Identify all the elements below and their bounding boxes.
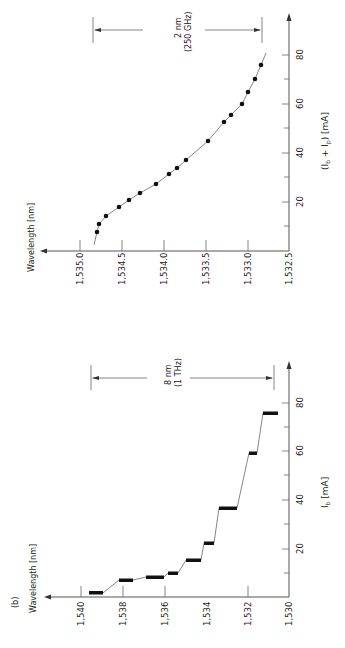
bottom-step-connector <box>103 413 263 593</box>
bottom-ytick-3: 1,534 <box>202 602 212 626</box>
bottom-xtick-60: 60 <box>295 445 305 456</box>
bottom-wavelength-arrow-icon <box>44 595 51 600</box>
top-ytick-3: 1,533.5 <box>201 253 211 285</box>
top-chart: 1,535.0 1,534.5 1,534.0 1,533.5 1,533.0 … <box>27 12 332 285</box>
bottom-ytick-0: 1,540 <box>76 602 86 626</box>
top-xtick-80: 80 <box>295 49 305 60</box>
top-data-points <box>95 63 264 235</box>
bottom-xtick-80: 80 <box>295 397 305 408</box>
bottom-dimension-annotation: 8 nm (1 THz) <box>91 358 274 390</box>
bottom-chart: 1,540 1,538 1,536 1,534 1,532 1,530 20 4… <box>11 358 331 626</box>
bottom-current-arrow-icon <box>287 361 292 369</box>
bottom-annotation-line2: (1 THz) <box>174 358 183 387</box>
top-xtick-40: 40 <box>295 147 305 158</box>
top-xtick-60: 60 <box>295 98 305 109</box>
top-fit-curve <box>94 53 266 245</box>
top-ytick-4: 1,533.0 <box>243 253 253 285</box>
bottom-ytick-2: 1,536 <box>160 602 170 626</box>
top-wavelength-ticks <box>80 240 248 251</box>
top-wavelength-arrow-icon <box>40 249 47 254</box>
top-current-arrow-icon <box>287 13 292 21</box>
bottom-xlabel: Ib [mA] <box>320 477 331 508</box>
top-annotation-line2: (250 GHz) <box>184 12 193 52</box>
top-xtick-20: 20 <box>295 196 305 207</box>
bottom-ytick-1: 1,538 <box>118 602 128 626</box>
figure: 1,535.0 1,534.5 1,534.0 1,533.5 1,533.0 … <box>0 0 345 648</box>
top-dimension-annotation: 2 nm (250 GHz) <box>93 12 262 52</box>
bottom-ylabel: Wavelength [nm] <box>29 544 38 613</box>
top-ytick-5: 1,532.5 <box>284 253 294 285</box>
top-ylabel: Wavelength [nm] <box>27 203 36 272</box>
top-xlabel: (Ib + Ip) [mA] <box>320 112 332 170</box>
top-ytick-2: 1,534.0 <box>159 253 169 285</box>
bottom-xtick-40: 40 <box>295 494 305 505</box>
bottom-xtick-20: 20 <box>295 543 305 554</box>
bottom-current-ticks <box>282 403 289 573</box>
bottom-ytick-4: 1,532 <box>243 602 253 626</box>
top-current-ticks <box>282 55 289 226</box>
top-ytick-0: 1,535.0 <box>75 253 85 285</box>
panel-b-label: (b) <box>11 597 20 608</box>
bottom-annotation-line1: 8 nm <box>164 364 173 385</box>
bottom-wavelength-ticks <box>81 586 248 597</box>
bottom-step-bars <box>89 412 278 595</box>
bottom-ytick-5: 1,530 <box>284 602 294 626</box>
top-annotation-line1: 2 nm <box>174 17 183 38</box>
top-ytick-1: 1,534.5 <box>117 253 127 285</box>
